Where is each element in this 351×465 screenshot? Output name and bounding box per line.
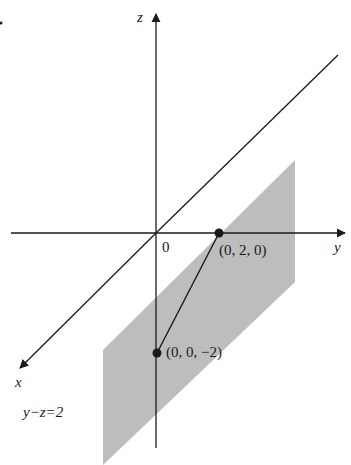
point-label-0-0-neg2: (0, 0, −2) [166,345,222,360]
point-0-0-neg2 [153,349,162,358]
point-0-2-0 [215,229,224,238]
plane-label: y−z=2 [23,405,63,420]
plane-diagram [0,0,351,465]
z-axis-label: z [137,10,143,25]
diagonal-line [156,55,338,233]
y-axis-label: y [334,240,341,255]
x-axis-label: x [15,375,22,390]
origin-label: 0 [162,240,170,255]
point-label-0-2-0: (0, 2, 0) [219,243,267,258]
stray-dot [0,22,3,25]
plane-y-minus-z-equals-2 [103,160,295,465]
